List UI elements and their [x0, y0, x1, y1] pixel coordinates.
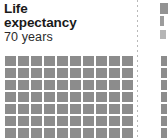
pictogram-unit [161, 104, 167, 114]
pictogram-unit [18, 128, 29, 138]
pictogram-unit [57, 56, 68, 66]
pictogram-unit [44, 56, 55, 66]
pictogram-unit [44, 92, 55, 102]
pictogram-unit [83, 104, 94, 114]
next-card-subtitle-fragment [160, 30, 166, 39]
page-title: Life expectancy [4, 2, 100, 29]
pictogram-unit [161, 68, 167, 78]
pictogram-unit [161, 80, 167, 90]
pictogram-unit [31, 68, 42, 78]
pictogram-unit [109, 92, 120, 102]
pictogram-unit [109, 116, 120, 126]
pictogram-unit [122, 80, 133, 90]
pictogram-unit [18, 56, 29, 66]
pictogram-unit [122, 92, 133, 102]
pictogram-unit [44, 68, 55, 78]
pictogram-unit [83, 128, 94, 138]
pictogram-unit [161, 116, 167, 126]
pictogram-unit [122, 116, 133, 126]
pictogram-unit [83, 56, 94, 66]
pictogram-unit [5, 68, 16, 78]
pictogram-unit [31, 56, 42, 66]
pictogram-unit [5, 128, 16, 138]
next-card-sliver [160, 0, 168, 140]
pictogram-unit [122, 56, 133, 66]
pictogram-unit [18, 116, 29, 126]
pictogram-unit [18, 80, 29, 90]
pictogram-unit [122, 104, 133, 114]
pictogram-unit [31, 116, 42, 126]
pictogram-unit [57, 116, 68, 126]
pictogram-unit [96, 92, 107, 102]
pictogram-unit [96, 80, 107, 90]
panel-divider [137, 0, 138, 140]
pictogram-unit [70, 128, 81, 138]
pictogram-unit [122, 68, 133, 78]
pictogram-unit [5, 116, 16, 126]
pictogram-unit [5, 104, 16, 114]
pictogram-unit [57, 128, 68, 138]
pictogram-unit [44, 80, 55, 90]
next-card-pictogram-fragment [161, 56, 167, 138]
pictogram-unit [18, 92, 29, 102]
pictogram-unit [161, 128, 167, 138]
pictogram-unit [5, 56, 16, 66]
pictogram-unit [70, 56, 81, 66]
pictogram-unit [5, 80, 16, 90]
infographic-panel: Life expectancy 70 years [0, 0, 168, 140]
pictogram-unit [57, 92, 68, 102]
pictogram-unit [44, 116, 55, 126]
pictogram-unit [122, 128, 133, 138]
pictogram-unit [70, 104, 81, 114]
pictogram-unit [83, 68, 94, 78]
pictogram-unit [31, 104, 42, 114]
pictogram-unit [96, 128, 107, 138]
pictogram-unit [109, 128, 120, 138]
pictogram-unit [57, 80, 68, 90]
pictogram-unit [109, 104, 120, 114]
pictogram-unit [5, 92, 16, 102]
pictogram-unit [83, 80, 94, 90]
pictogram-unit [31, 128, 42, 138]
pictogram-unit [109, 68, 120, 78]
pictogram-unit [96, 68, 107, 78]
pictogram-unit [161, 56, 167, 66]
pictogram-unit [83, 116, 94, 126]
pictogram-unit [70, 68, 81, 78]
pictogram-unit [44, 104, 55, 114]
pictogram-unit [70, 116, 81, 126]
pictogram-unit [109, 56, 120, 66]
pictogram-unit [70, 92, 81, 102]
pictogram-unit [31, 80, 42, 90]
pictogram-unit [57, 104, 68, 114]
pictogram-unit [96, 116, 107, 126]
pictogram-unit [96, 104, 107, 114]
pictogram-unit [70, 80, 81, 90]
pictogram-unit [96, 56, 107, 66]
pictogram-unit [31, 92, 42, 102]
next-card-title-fragment-2 [160, 16, 164, 26]
pictogram-unit [18, 104, 29, 114]
card-subtitle-value: 70 years [4, 29, 135, 45]
pictogram-unit [109, 80, 120, 90]
pictogram-unit [18, 68, 29, 78]
pictogram-unit [57, 68, 68, 78]
next-card-title-fragment [160, 3, 168, 14]
pictogram-unit [44, 128, 55, 138]
pictogram-grid [5, 56, 133, 138]
pictogram-unit [83, 92, 94, 102]
pictogram-unit [161, 92, 167, 102]
